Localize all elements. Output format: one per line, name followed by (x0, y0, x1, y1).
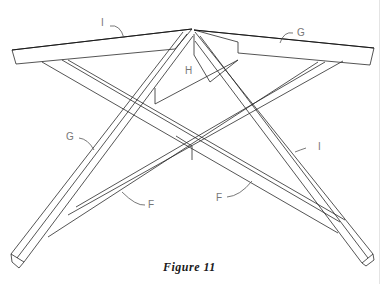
part-label-g-left: G (66, 131, 74, 142)
part-label-f-right: F (216, 192, 222, 203)
center-block (176, 136, 192, 160)
figure-caption: Figure 11 (163, 260, 216, 275)
part-labels: I G H G I F F (66, 17, 321, 210)
stretcher-f-right (42, 60, 345, 233)
leg-g-left (11, 32, 193, 268)
part-label-h: H (185, 65, 192, 76)
assembly-drawing: I G H G I F F (0, 0, 390, 284)
part-label-i-right: I (318, 141, 321, 152)
rail-i-top-left (12, 29, 192, 64)
part-label-i-top: I (101, 17, 104, 28)
part-label-f-left: F (148, 199, 154, 210)
panel-h (155, 34, 238, 104)
part-label-g-top: G (297, 27, 305, 38)
page-edge-divider (379, 0, 380, 284)
